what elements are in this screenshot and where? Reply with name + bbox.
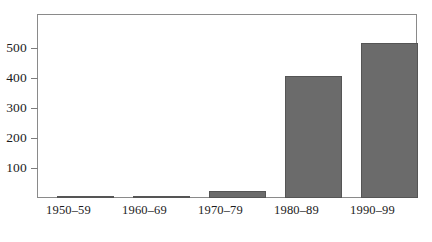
y-axis-label-400: 400 [0,71,27,85]
x-axis-label-1960-69: 1960–69 [101,204,188,217]
bar-1960-69 [133,196,190,198]
x-axis-label-1950-59: 1950–59 [25,204,112,217]
x-axis-label-1970-79: 1970–79 [177,204,264,217]
y-axis-label-500: 500 [0,41,27,55]
bar-1990-99 [361,43,418,199]
y-axis-label-100: 100 [0,161,27,175]
x-axis-label-1980-89: 1980–89 [253,204,340,217]
y-axis-label-200: 200 [0,131,27,145]
bar-chart: 500 400 300 200 100 1950–59 1960–69 1970… [0,0,432,242]
bar-1970-79 [209,191,266,198]
bar-1950-59 [57,196,114,198]
x-axis-label-1990-99: 1990–99 [329,204,416,217]
y-axis-label-300: 300 [0,101,27,115]
bars-layer [37,14,417,198]
bar-1980-89 [285,76,342,199]
